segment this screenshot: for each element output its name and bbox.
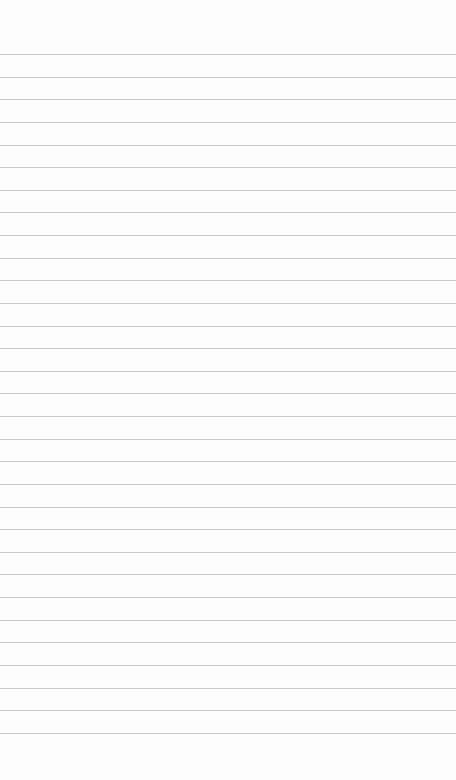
ruled-line	[0, 439, 456, 440]
ruled-line	[0, 122, 456, 123]
ruled-line	[0, 258, 456, 259]
ruled-line	[0, 665, 456, 666]
ruled-line	[0, 620, 456, 621]
ruled-line	[0, 642, 456, 643]
ruled-line	[0, 552, 456, 553]
ruled-line	[0, 529, 456, 530]
ruled-line	[0, 99, 456, 100]
ruled-line	[0, 167, 456, 168]
ruled-line	[0, 280, 456, 281]
ruled-line	[0, 484, 456, 485]
ruled-line	[0, 235, 456, 236]
ruled-line	[0, 733, 456, 734]
ruled-line	[0, 212, 456, 213]
ruled-line	[0, 77, 456, 78]
ruled-line	[0, 348, 456, 349]
ruled-line	[0, 393, 456, 394]
ruled-line	[0, 303, 456, 304]
ruled-line	[0, 371, 456, 372]
ruled-line	[0, 190, 456, 191]
ruled-line	[0, 688, 456, 689]
ruled-line	[0, 145, 456, 146]
ruled-line	[0, 326, 456, 327]
ruled-paper-page	[0, 0, 456, 780]
ruled-line	[0, 507, 456, 508]
ruled-line	[0, 710, 456, 711]
ruled-line	[0, 461, 456, 462]
ruled-line	[0, 416, 456, 417]
ruled-line	[0, 574, 456, 575]
ruled-line	[0, 597, 456, 598]
ruled-line	[0, 54, 456, 55]
